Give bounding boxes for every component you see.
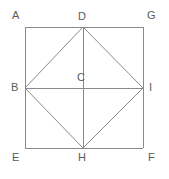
vertex-label-G: G — [147, 10, 156, 21]
vertex-label-C: C — [77, 72, 85, 83]
vertex-label-B: B — [11, 82, 18, 93]
geometry-figure: A D G B C I E H F — [0, 0, 169, 179]
vertex-label-A: A — [12, 10, 19, 21]
vertex-label-F: F — [148, 152, 155, 163]
vertex-label-H: H — [78, 152, 86, 163]
segment-inner-square-DB — [25, 27, 83, 88]
segment-inner-square-BH — [25, 88, 83, 148]
vertex-label-E: E — [12, 152, 19, 163]
segment-inner-square-DI — [83, 27, 143, 88]
segment-inner-square-IH — [83, 88, 143, 148]
vertex-label-D: D — [78, 11, 86, 22]
vertex-label-I: I — [149, 82, 152, 93]
